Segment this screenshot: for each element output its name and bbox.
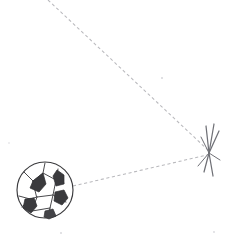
incoming-trajectory-line [48, 0, 209, 151]
outgoing-trajectory-line [73, 155, 207, 186]
soccer-ball [17, 162, 73, 219]
impact-burst-icon [198, 124, 220, 176]
trajectory-diagram [0, 0, 225, 242]
diagram-canvas [0, 0, 225, 242]
